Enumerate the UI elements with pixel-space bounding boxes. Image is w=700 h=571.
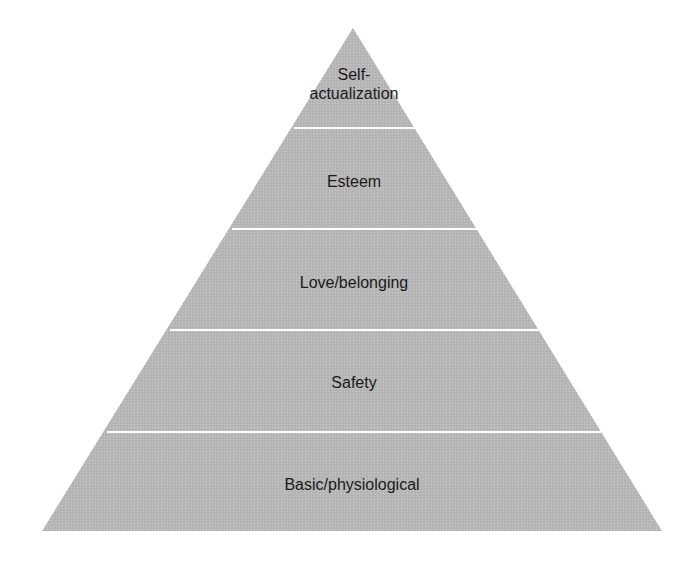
level-basic-physiological: Basic/physiological bbox=[284, 475, 419, 494]
level-esteem: Esteem bbox=[327, 172, 381, 191]
level-love-belonging: Love/belonging bbox=[300, 273, 409, 292]
level-safety: Safety bbox=[331, 373, 376, 392]
level-self-actualization: Self- actualization bbox=[310, 65, 399, 103]
